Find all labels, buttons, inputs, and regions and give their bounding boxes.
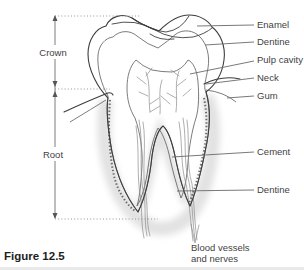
- dentine-upper-label: Dentine: [257, 36, 290, 47]
- crown-measure-label: Crown: [39, 47, 66, 58]
- cement-label: Cement: [257, 146, 291, 157]
- arrow-down-icon: [53, 213, 58, 219]
- arrow-down-icon: [53, 81, 58, 87]
- tooth-diagram: Crown Root Enamel Dentine Pulp cavity Ne…: [0, 0, 304, 270]
- root-measure-label: Root: [43, 149, 63, 160]
- pulp-vessels: [137, 68, 191, 114]
- pulp-cavity-label: Pulp cavity: [257, 54, 303, 65]
- tooth-diagram-page: Crown Root Enamel Dentine Pulp cavity Ne…: [0, 0, 304, 270]
- enamel-label: Enamel: [257, 19, 289, 30]
- blood-vessels-label-line2: and nerves: [191, 253, 238, 264]
- arrow-up-icon: [53, 91, 58, 97]
- neck-label: Neck: [257, 72, 279, 83]
- figure-caption: Figure 12.5: [4, 250, 65, 262]
- blood-vessels-label-line1: Blood vessels: [191, 242, 250, 253]
- dentine-lower-label: Dentine: [257, 184, 290, 195]
- gum-label: Gum: [257, 90, 278, 101]
